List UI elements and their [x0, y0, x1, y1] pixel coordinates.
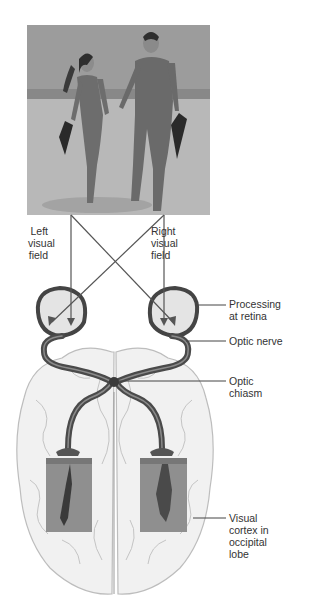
label-line: Optic nerve — [229, 335, 283, 347]
label-line: field — [28, 249, 48, 261]
left-eye — [38, 288, 85, 336]
label-line: lobe — [229, 548, 269, 560]
label-right-visual-field: Right visual field — [151, 225, 178, 261]
right-cortex-image — [140, 458, 187, 532]
label-line: chiasm — [229, 387, 262, 399]
label-line: cortex in — [229, 524, 269, 536]
callout-optic-chiasm: Optic chiasm — [229, 375, 262, 399]
label-left-visual-field: Left visual field — [28, 225, 48, 261]
label-line: visual — [28, 237, 48, 249]
callout-visual-cortex: Visual cortex in occipital lobe — [229, 512, 269, 560]
left-cortex-image — [46, 458, 92, 532]
label-line: occipital — [229, 536, 269, 548]
label-line: Visual — [229, 512, 269, 524]
label-line: Processing — [229, 298, 281, 310]
label-line: field — [151, 249, 178, 261]
label-line: Optic — [229, 375, 262, 387]
callout-processing-at-retina: Processing at retina — [229, 298, 281, 322]
label-line: Left — [28, 225, 48, 237]
right-eye — [150, 288, 197, 336]
label-line: visual — [151, 237, 178, 249]
label-line: at retina — [229, 310, 281, 322]
arrow-right-to-left-eye — [52, 215, 164, 322]
callout-optic-nerve: Optic nerve — [229, 335, 283, 347]
optic-chiasm-junction — [109, 377, 119, 387]
label-line: Right — [151, 225, 178, 237]
